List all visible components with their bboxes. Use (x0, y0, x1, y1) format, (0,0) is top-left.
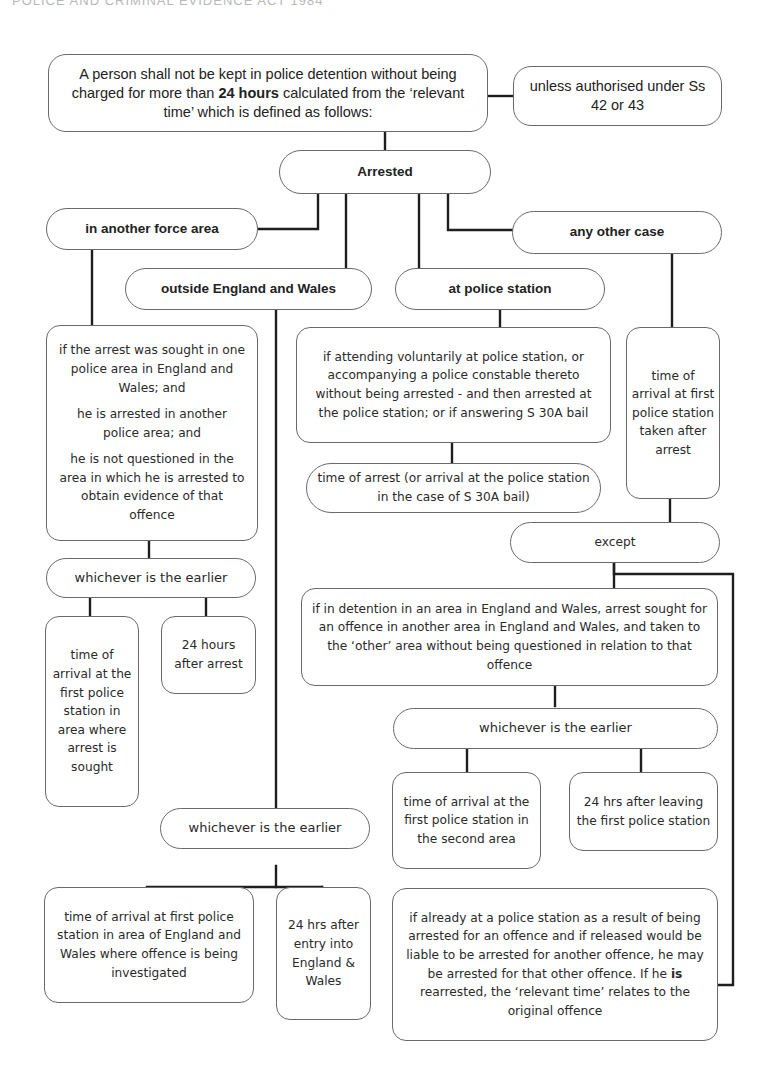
exception-1-option-24h: 24 hrs after leaving the first police st… (569, 772, 718, 851)
branch-another-force-area: in another force area (46, 208, 258, 250)
branch-outside-england-wales: outside England and Wales (125, 268, 372, 310)
condition-3: he is not questioned in the area in whic… (57, 450, 247, 524)
authorised-box: unless authorised under Ss 42 or 43 (513, 66, 722, 126)
another-force-area-conditions: if the arrest was sought in one police a… (46, 325, 258, 541)
any-other-case-result: time of arrival at first police station … (626, 327, 720, 499)
another-force-area-whichever: whichever is the earlier (46, 558, 256, 598)
another-force-area-option-arrival: time of arrival at the first police stat… (45, 616, 139, 807)
exception-2-rearrest: if already at a police station as a resu… (392, 888, 718, 1041)
at-police-station-result: time of arrest (or arrival at the police… (306, 463, 601, 513)
exception-1-condition: if in detention in an area in England an… (301, 588, 718, 686)
at-police-station-condition: if attending voluntarily at police stati… (296, 327, 611, 443)
branch-any-other-case-label: any other case (570, 223, 665, 242)
exception-1-whichever: whichever is the earlier (393, 708, 718, 749)
except-box: except (510, 522, 720, 563)
authorised-text: unless authorised under Ss 42 or 43 (520, 77, 715, 115)
condition-2: he is arrested in another police area; a… (57, 405, 247, 442)
intro-text-bold: 24 hours (218, 85, 278, 101)
outside-england-wales-option-arrival: time of arrival at first police station … (44, 887, 254, 1003)
condition-1: if the arrest was sought in one police a… (57, 341, 247, 397)
outside-england-wales-option-24h: 24 hrs after entry into England & Wales (276, 887, 371, 1020)
branch-another-force-area-label: in another force area (85, 220, 219, 239)
another-force-area-option-24h: 24 hours after arrest (161, 616, 256, 694)
intro-box: A person shall not be kept in police det… (48, 54, 488, 132)
exception-1-option-arrival: time of arrival at the first police stat… (392, 772, 541, 869)
branch-at-police-station: at police station (395, 268, 605, 310)
branch-outside-england-wales-label: outside England and Wales (161, 280, 336, 299)
outside-england-wales-whichever: whichever is the earlier (160, 808, 370, 849)
branch-any-other-case: any other case (512, 211, 722, 254)
arrested-box: Arrested (279, 150, 491, 194)
branch-at-police-station-label: at police station (449, 280, 552, 299)
arrested-label: Arrested (357, 163, 413, 182)
